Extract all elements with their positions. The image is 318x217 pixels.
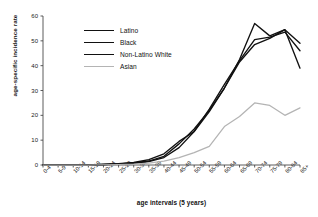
legend-item-non-latino-white[interactable]: Non-Latino White: [84, 48, 172, 60]
legend-item-latino[interactable]: Latino: [84, 24, 172, 36]
legend-swatch-icon: [84, 30, 114, 31]
legend-label: Asian: [120, 63, 137, 70]
legend-label: Black: [120, 39, 136, 46]
legend-swatch-icon: [84, 54, 114, 55]
legend-label: Latino: [120, 27, 138, 34]
incidence-rate-line-chart: age-specific incidence rate age interval…: [0, 0, 318, 217]
legend-swatch-icon: [84, 66, 114, 67]
legend-item-black[interactable]: Black: [84, 36, 172, 48]
legend-swatch-icon: [84, 42, 114, 43]
chart-legend: LatinoBlackNon-Latino WhiteAsian: [84, 24, 172, 72]
legend-item-asian[interactable]: Asian: [84, 60, 172, 72]
legend-label: Non-Latino White: [120, 51, 172, 58]
series-line-asian: [43, 103, 300, 165]
